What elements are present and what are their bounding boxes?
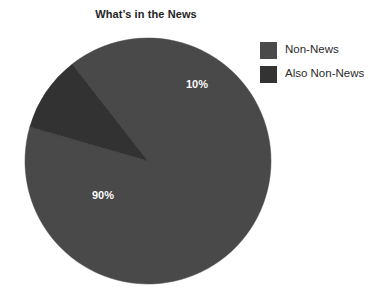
- pie-chart-figure: What’s in the News 90% 10%: [0, 0, 384, 305]
- legend-swatch-icon: [260, 42, 277, 59]
- pie-slice-label-also-non-news: 10%: [186, 78, 208, 90]
- legend-item-label: Also Non-News: [285, 68, 364, 80]
- pie-slice-label-non-news: 90%: [92, 189, 114, 201]
- legend-item-non-news[interactable]: Non-News: [260, 38, 384, 62]
- chart-legend: Non-News Also Non-News: [260, 38, 384, 86]
- legend-item-label: Non-News: [285, 44, 339, 56]
- legend-item-also-non-news[interactable]: Also Non-News: [260, 62, 384, 86]
- legend-swatch-icon: [260, 66, 277, 83]
